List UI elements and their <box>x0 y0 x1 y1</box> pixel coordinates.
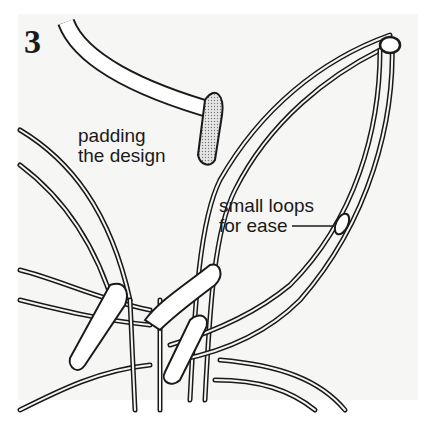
illustration-canvas: 3 padding the design small loops for eas… <box>0 0 438 438</box>
label-padding-the-design: padding the design <box>78 126 166 166</box>
label-line: for ease <box>219 216 314 236</box>
label-line: the design <box>78 146 166 166</box>
step-number: 3 <box>24 24 41 60</box>
label-line: padding <box>78 126 166 146</box>
label-line: small loops <box>219 196 314 216</box>
label-small-loops: small loops for ease <box>219 196 314 236</box>
